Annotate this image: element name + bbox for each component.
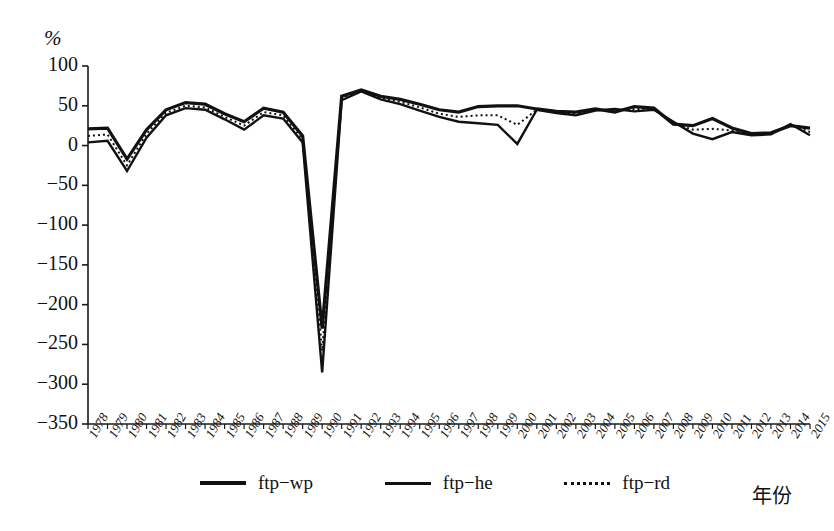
legend-label: ftp−he — [443, 472, 493, 494]
x-axis-title: 年份 — [752, 480, 792, 509]
axis-lines — [82, 66, 810, 429]
legend-entry-ftp-he[interactable]: ftp−he — [385, 472, 493, 494]
y-axis-tick-label: 100 — [8, 53, 78, 76]
y-axis-tick-label: −150 — [8, 252, 78, 275]
legend-swatch-icon — [385, 482, 431, 485]
y-axis-tick-label: −50 — [8, 172, 78, 195]
y-axis-tick-label: −100 — [8, 212, 78, 235]
legend-swatch-icon — [200, 481, 246, 485]
legend-swatch-icon — [564, 482, 610, 485]
chart-legend: ftp−wpftp−heftp−rd — [200, 468, 670, 498]
legend-entry-ftp-rd[interactable]: ftp−rd — [564, 472, 670, 494]
chart-plot-area — [0, 0, 834, 531]
y-axis-tick-label: −300 — [8, 371, 78, 394]
legend-label: ftp−wp — [258, 472, 313, 494]
y-axis-tick-label: −200 — [8, 292, 78, 315]
y-axis-tick-label: −350 — [8, 411, 78, 434]
chart-figure: % 100500−50−100−150−200−250−300−350 1978… — [0, 0, 834, 531]
data-series-group — [88, 90, 810, 372]
y-axis-unit-label: % — [44, 26, 62, 51]
y-axis-tick-label: 50 — [8, 93, 78, 116]
data-series-ftp-wp — [88, 90, 810, 329]
legend-entry-ftp-wp[interactable]: ftp−wp — [200, 472, 313, 494]
y-axis-tick-label: −250 — [8, 331, 78, 354]
data-series-ftp-he — [88, 91, 810, 372]
y-axis-tick-label: 0 — [8, 133, 78, 156]
data-series-ftp-rd — [88, 91, 810, 351]
legend-label: ftp−rd — [622, 472, 670, 494]
